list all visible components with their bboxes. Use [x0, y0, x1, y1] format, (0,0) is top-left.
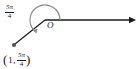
polar-axis-arrowhead-icon: [129, 17, 136, 23]
angle-denominator: 4: [7, 13, 13, 21]
polar-angle-diagram: O 5π 4 ( 1 , 5π 4 ): [0, 0, 138, 69]
point-coordinates-label: ( 1 , 5π 4 ): [3, 52, 30, 68]
plotted-point-marker: [12, 43, 16, 47]
angle-fraction: 5π 4: [5, 4, 14, 20]
point-angle-fraction: 5π 4: [17, 52, 26, 68]
angle-arc-path: [30, 5, 60, 31]
origin-label: O: [47, 21, 54, 30]
close-paren: ): [26, 54, 30, 66]
polar-axis-ray: [45, 17, 136, 23]
angle-sweep-arc: [30, 5, 60, 34]
angle-numerator: 5π: [5, 4, 14, 12]
point-angle-denominator: 4: [19, 61, 25, 69]
angle-measure-label: 5π 4: [5, 3, 14, 20]
point-angle-numerator: 5π: [17, 52, 26, 60]
